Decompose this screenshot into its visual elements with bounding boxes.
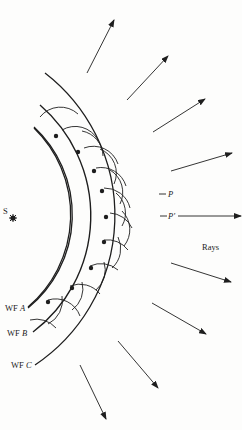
secondary-source-dot xyxy=(104,215,108,219)
secondary-source-dot xyxy=(102,240,106,244)
wavefront-c-label: WF C xyxy=(11,360,32,370)
point-p-marker: P xyxy=(159,189,173,199)
ray-arrow xyxy=(152,303,206,334)
secondary-source-dot xyxy=(54,134,58,138)
point-p-prime-marker: P′ xyxy=(160,211,175,221)
ray-arrow xyxy=(171,263,231,282)
wavefront-a xyxy=(28,127,72,308)
ray-arrow xyxy=(171,153,232,171)
wavefront-b-label: WF B xyxy=(7,328,27,338)
point-p-label: P xyxy=(167,189,173,199)
ray-arrow xyxy=(80,365,106,419)
secondary-source-dot xyxy=(89,266,93,270)
ray-arrow xyxy=(118,341,158,388)
point-p-prime-label: P′ xyxy=(167,211,175,221)
source-label: S xyxy=(3,206,8,216)
star-icon xyxy=(9,214,17,222)
secondary-source-dot xyxy=(92,169,96,173)
wavefront-a-label: WF A xyxy=(5,303,26,313)
wavefront-a-line xyxy=(28,128,71,307)
ray-arrow xyxy=(153,99,205,132)
secondary-source-dot xyxy=(100,189,104,193)
ray-arrow xyxy=(127,56,168,100)
ray-arrow xyxy=(87,20,114,73)
wavefront-a-arc xyxy=(28,128,108,308)
rays-label: Rays xyxy=(202,242,219,252)
huygens-wavefront-diagram: S WF A WF B xyxy=(0,0,242,430)
secondary-source-dot xyxy=(46,300,50,304)
rays xyxy=(80,20,241,419)
point-source: S xyxy=(3,206,17,222)
